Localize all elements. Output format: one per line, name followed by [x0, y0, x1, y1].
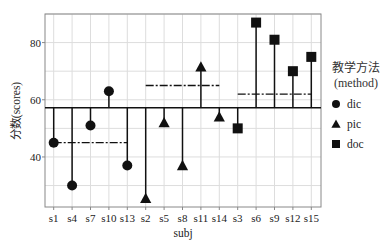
marker-s14-pic-triangle-icon	[214, 111, 225, 121]
marker-s10-dic-circle-icon	[104, 86, 114, 96]
y-tick-label: 80	[30, 37, 42, 49]
y-tick-label: 60	[30, 94, 42, 106]
x-tick-label: s3	[233, 212, 243, 224]
x-tick-label: s13	[120, 212, 136, 224]
x-tick-label: s10	[101, 212, 117, 224]
marker-s1-dic-circle-icon	[49, 138, 59, 148]
scores-chart: 406080 s1s4s7s10s13s2s5s8s11s14s3s6s9s12…	[0, 0, 390, 246]
marker-s9-doc-square-icon	[270, 35, 280, 45]
x-tick-label: s5	[159, 212, 169, 224]
legend-label-dic: dic	[347, 98, 361, 110]
legend: 教学方法 (method) dicpicdoc	[331, 60, 380, 150]
y-tick-label: 40	[30, 151, 42, 163]
chart-container: 406080 s1s4s7s10s13s2s5s8s11s14s3s6s9s12…	[0, 0, 390, 246]
legend-title: 教学方法	[332, 60, 380, 75]
x-tick-label: s11	[193, 212, 208, 224]
legend-circle-icon	[332, 100, 340, 108]
x-tick-label: s6	[251, 212, 261, 224]
x-tick-label: s1	[49, 212, 59, 224]
x-axis-ticks: s1s4s7s10s13s2s5s8s11s14s3s6s9s12s15	[49, 207, 320, 224]
legend-triangle-icon	[331, 119, 340, 127]
y-axis-ticks: 406080	[30, 37, 45, 163]
x-tick-label: s4	[67, 212, 77, 224]
legend-square-icon	[332, 140, 340, 148]
x-axis-label: subj	[173, 227, 192, 240]
x-tick-label: s2	[141, 212, 151, 224]
x-tick-label: s14	[212, 212, 228, 224]
marker-s15-doc-square-icon	[306, 52, 316, 62]
marker-s11-pic-triangle-icon	[195, 61, 206, 71]
marker-s6-doc-square-icon	[251, 18, 261, 28]
x-tick-label: s7	[86, 212, 96, 224]
x-tick-label: s15	[304, 212, 320, 224]
marker-s13-dic-circle-icon	[122, 161, 132, 171]
marker-s12-doc-square-icon	[288, 66, 298, 76]
marker-s5-pic-triangle-icon	[159, 117, 170, 127]
legend-label-doc: doc	[347, 138, 364, 150]
x-tick-label: s12	[285, 212, 300, 224]
y-axis-label: 分数(scores)	[9, 82, 23, 141]
x-tick-label: s9	[270, 212, 280, 224]
marker-s3-doc-square-icon	[233, 123, 243, 133]
marker-s2-pic-triangle-icon	[140, 193, 151, 203]
x-tick-label: s8	[178, 212, 188, 224]
marker-s4-dic-circle-icon	[67, 181, 77, 191]
marker-s7-dic-circle-icon	[86, 121, 96, 131]
marker-s8-pic-triangle-icon	[177, 160, 188, 170]
legend-subtitle: (method)	[334, 76, 378, 90]
legend-label-pic: pic	[347, 118, 361, 131]
